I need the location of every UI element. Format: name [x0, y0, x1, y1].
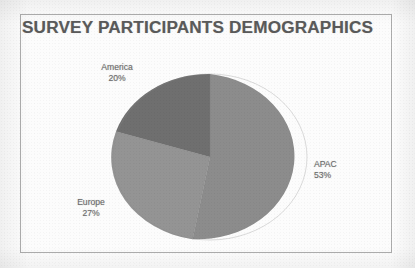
chart-screenshot: SURVEY PARTICIPANTS DEMOGRAPHICS America…	[0, 0, 415, 268]
pie-chart	[0, 0, 415, 268]
pie-label-america: America 20%	[88, 62, 146, 84]
chart-title: SURVEY PARTICIPANTS DEMOGRAPHICS	[22, 17, 352, 38]
pie-label-america-name: America	[88, 62, 146, 73]
pie-label-apac-percent: 53%	[314, 170, 362, 181]
pie-label-apac-name: APAC	[314, 159, 362, 170]
pie-label-europe-percent: 27%	[64, 208, 118, 219]
pie-slices	[111, 74, 294, 239]
pie-label-america-percent: 20%	[88, 73, 146, 84]
pie-label-europe-name: Europe	[64, 197, 118, 208]
pie-label-apac: APAC 53%	[314, 159, 362, 181]
pie-chart-svg	[0, 0, 415, 268]
pie-label-europe: Europe 27%	[64, 197, 118, 219]
